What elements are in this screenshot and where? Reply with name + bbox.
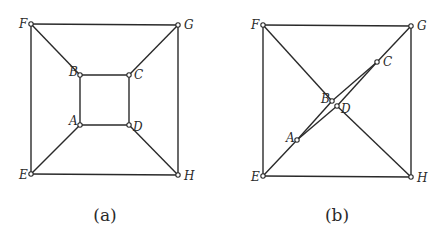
vertex-label-F: F xyxy=(18,17,28,31)
cube-graph-figure: ABCDEFGH(a) ABCDEFGH(b) xyxy=(0,0,443,252)
vertex-label-H: H xyxy=(183,169,195,183)
edge-FG xyxy=(263,25,411,26)
vertex-label-D: D xyxy=(132,120,143,134)
vertex-E xyxy=(29,172,33,176)
vertex-E xyxy=(261,174,265,178)
vertex-G xyxy=(409,24,413,28)
edge-AB xyxy=(297,101,332,140)
vertex-D xyxy=(127,123,131,127)
vertex-label-G: G xyxy=(417,19,427,33)
vertex-label-A: A xyxy=(68,114,78,128)
vertex-D xyxy=(335,104,339,108)
edge-HE xyxy=(263,176,411,177)
edge-BC xyxy=(332,62,377,101)
vertex-label-G: G xyxy=(184,18,194,32)
vertex-label-F: F xyxy=(250,18,260,32)
vertex-B xyxy=(78,73,82,77)
edge-FG xyxy=(31,24,178,25)
vertex-label-E: E xyxy=(18,168,28,182)
vertex-label-C: C xyxy=(383,55,392,69)
vertex-B xyxy=(330,99,334,103)
vertex-label-C: C xyxy=(134,68,143,82)
vertex-F xyxy=(261,23,265,27)
vertex-H xyxy=(409,175,413,179)
vertex-label-B: B xyxy=(68,65,78,79)
edge-DA xyxy=(297,106,337,140)
edge-AE xyxy=(31,125,80,174)
edge-BF xyxy=(263,25,332,101)
edge-CD xyxy=(337,62,377,106)
vertex-label-D: D xyxy=(340,102,351,116)
vertex-label-E: E xyxy=(250,170,260,184)
vertex-C xyxy=(127,73,131,77)
vertex-label-A: A xyxy=(285,131,295,145)
vertex-F xyxy=(29,22,33,26)
edge-AE xyxy=(263,140,297,176)
panel-b: ABCDEFGH(b) xyxy=(250,18,428,225)
vertex-label-H: H xyxy=(416,171,428,185)
panel-caption: (a) xyxy=(93,205,116,225)
panel-caption: (b) xyxy=(325,205,349,225)
vertex-label-B: B xyxy=(320,92,330,106)
vertex-A xyxy=(78,123,82,127)
panel-a: ABCDEFGH(a) xyxy=(18,17,195,225)
vertex-G xyxy=(176,23,180,27)
edge-DH xyxy=(337,106,411,177)
vertex-H xyxy=(176,173,180,177)
vertex-C xyxy=(375,60,379,64)
edge-HE xyxy=(31,174,178,175)
vertex-A xyxy=(295,138,299,142)
